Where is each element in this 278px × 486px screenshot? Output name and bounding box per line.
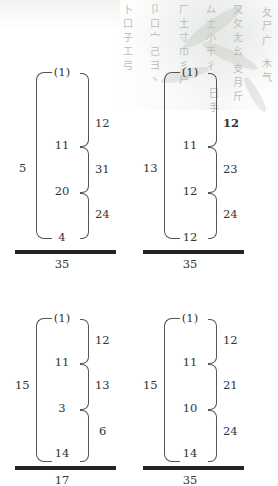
brace-1 (80, 73, 89, 147)
bracket-bottom-stub (44, 238, 52, 239)
row-value-2: 10 (183, 402, 198, 414)
diff-value-1: 12 (223, 117, 239, 129)
radical: 广 (260, 35, 274, 46)
brace-3 (208, 193, 217, 239)
brace-3 (208, 410, 217, 462)
brace-1 (80, 319, 89, 364)
total-value: 17 (55, 474, 70, 486)
bracket-top-stub (172, 72, 180, 73)
diff-value-1: 12 (95, 334, 110, 346)
radical: 木 (260, 58, 274, 69)
bracket-top-corner (36, 318, 45, 327)
brace-3 (80, 410, 89, 462)
radical: 夂 (260, 7, 274, 18)
row-value-1: 11 (183, 356, 198, 368)
brace-2 (80, 147, 89, 193)
row-value-3: 14 (55, 447, 70, 459)
bracket-bottom-stub (44, 461, 52, 462)
top-label: (1) (54, 66, 70, 78)
diff-value-1: 12 (223, 334, 238, 346)
brace-1 (208, 319, 217, 364)
diff-value-1: 12 (95, 117, 110, 129)
count-label: 13 (143, 162, 158, 174)
total-value: 35 (183, 474, 198, 486)
top-label: (1) (182, 312, 198, 324)
row-value-2: 20 (55, 185, 70, 197)
bracket-left-line (164, 80, 165, 230)
problem-panel-3: (1) 11 3 14 12 13 6 15 17 (0, 246, 130, 426)
diff-value-3: 24 (223, 425, 238, 437)
bracket-top-corner (36, 72, 45, 81)
bracket-top-stub (44, 318, 52, 319)
count-label: 5 (19, 162, 26, 174)
problem-panel-4: (1) 11 10 14 12 21 24 15 35 (128, 246, 258, 426)
bracket-bottom-stub (172, 461, 180, 462)
problem-panel-2: (1) 11 12 12 12 23 24 13 35 (128, 0, 258, 180)
bracket-top-corner (164, 72, 173, 81)
radical: 气 (260, 72, 274, 83)
diff-value-3: 24 (223, 208, 238, 220)
row-value-1: 11 (55, 356, 70, 368)
bracket-top-stub (172, 318, 180, 319)
row-value-2: 12 (183, 185, 198, 197)
bracket-left-line (164, 326, 165, 453)
brace-1 (208, 73, 217, 147)
diff-value-3: 24 (95, 208, 110, 220)
bracket-left-line (36, 326, 37, 453)
row-value-3: 4 (58, 231, 65, 243)
brace-2 (208, 147, 217, 193)
row-value-3: 12 (183, 231, 198, 243)
diff-value-2: 23 (223, 163, 238, 175)
total-bar (15, 466, 116, 470)
count-label: 15 (143, 379, 158, 391)
count-label: 15 (15, 379, 30, 391)
diff-value-3: 6 (99, 425, 106, 437)
radical: 尸 (260, 21, 274, 32)
top-label: (1) (182, 66, 198, 78)
top-label: (1) (54, 312, 70, 324)
brace-2 (80, 364, 89, 410)
row-value-1: 11 (183, 139, 198, 151)
row-value-1: 11 (55, 139, 70, 151)
bracket-top-stub (44, 72, 52, 73)
brace-2 (208, 364, 217, 410)
bracket-top-corner (164, 318, 173, 327)
total-bar (143, 466, 244, 470)
diff-value-2: 13 (95, 379, 110, 391)
diff-value-2: 21 (223, 379, 238, 391)
row-value-2: 3 (58, 402, 65, 414)
diff-value-2: 31 (95, 163, 110, 175)
radical-column-6: 夂 尸 广 木 气 (260, 4, 274, 83)
bracket-bottom-stub (172, 238, 180, 239)
problem-panel-1: (1) 11 20 4 12 31 24 5 35 (0, 0, 130, 180)
brace-3 (80, 193, 89, 239)
bracket-left-line (36, 80, 37, 230)
row-value-3: 14 (183, 447, 198, 459)
